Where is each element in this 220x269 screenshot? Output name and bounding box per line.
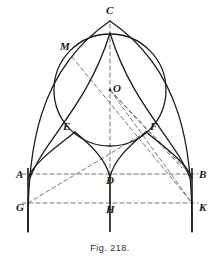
point-label-m: M <box>59 40 71 52</box>
point-marker-o <box>109 89 112 92</box>
figure-container: CMOEFADBGHK Fig. 218. <box>0 0 220 269</box>
foil-left-inner <box>75 132 110 177</box>
point-label-d: D <box>105 174 114 186</box>
geometric-figure: CMOEFADBGHK <box>0 0 220 269</box>
line-O-K <box>110 90 192 203</box>
foil-right-inner <box>110 132 146 177</box>
point-label-h: H <box>105 203 115 215</box>
point-markers-group <box>109 89 112 92</box>
line-M-O-K <box>72 57 192 203</box>
point-label-e: E <box>62 120 70 132</box>
inner-arch-right <box>110 33 190 178</box>
point-label-a: A <box>15 168 23 180</box>
point-label-o: O <box>113 82 121 94</box>
point-label-b: B <box>198 168 206 180</box>
figure-caption: Fig. 218. <box>0 243 220 253</box>
point-label-k: K <box>198 201 207 213</box>
inner-arch-left <box>30 33 110 178</box>
point-label-f: F <box>149 120 158 132</box>
point-label-c: C <box>106 4 114 16</box>
point-label-g: G <box>16 201 24 213</box>
